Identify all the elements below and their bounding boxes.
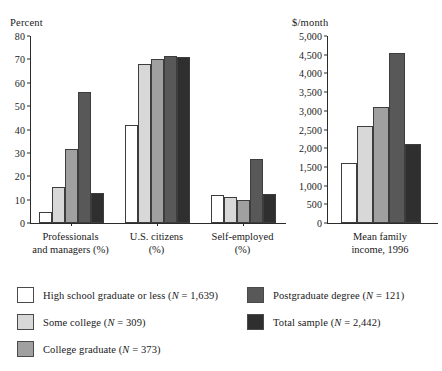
bar (237, 200, 250, 223)
right-bar-groups (328, 36, 437, 223)
y-tick-label: 2,500 (299, 124, 327, 135)
y-tick-label: 1,000 (299, 180, 327, 191)
x-tick-mark (157, 223, 158, 226)
legend-item: High school graduate or less (N = 1,639) (17, 287, 218, 303)
bar (250, 159, 263, 223)
category-label: Self-employed (%) (183, 231, 303, 256)
legend-item: Postgraduate degree (N = 121) (247, 287, 404, 303)
y-tick-label: 3,000 (299, 105, 327, 116)
y-tick-mark (27, 152, 30, 153)
legend-label: Some college (N = 309) (43, 317, 146, 328)
chart-legend: High school graduate or less (N = 1,639)… (0, 283, 442, 371)
y-tick-mark (324, 223, 327, 224)
bar (357, 126, 373, 223)
legend-item: Some college (N = 309) (17, 314, 146, 330)
y-tick-mark (27, 129, 30, 130)
bar (211, 195, 224, 223)
bar (151, 59, 164, 223)
legend-item: Total sample (N = 2,442) (247, 314, 381, 330)
right-x-axis (327, 223, 438, 224)
legend-label: College graduate (N = 373) (43, 344, 161, 355)
bar (52, 187, 65, 223)
bar (405, 144, 421, 223)
legend-swatch-icon (17, 341, 34, 357)
legend-item: College graduate (N = 373) (17, 341, 161, 357)
y-tick-mark (27, 82, 30, 83)
y-tick-label: 1,500 (299, 161, 327, 172)
bar (341, 163, 357, 223)
y-tick-mark (27, 106, 30, 107)
y-tick-mark (324, 148, 327, 149)
legend-swatch-icon (17, 287, 34, 303)
legend-swatch-icon (247, 314, 264, 330)
bar (91, 193, 104, 223)
bar (263, 194, 276, 223)
bar (78, 92, 91, 223)
y-tick-label: 4,000 (299, 68, 327, 79)
left-bar-groups (31, 36, 285, 223)
category-label: Mean family income, 1996 (320, 231, 440, 256)
bar-group (125, 36, 190, 223)
y-tick-mark (324, 166, 327, 167)
bar (224, 197, 237, 223)
bar-group (211, 36, 276, 223)
right-chart-unit-label: $/month (292, 17, 328, 28)
legend-label: Postgraduate degree (N = 121) (273, 290, 404, 301)
bar (164, 56, 177, 223)
bar (373, 107, 389, 223)
y-tick-mark (324, 73, 327, 74)
y-tick-mark (27, 223, 30, 224)
bar (125, 125, 138, 223)
legend-label: Total sample (N = 2,442) (273, 317, 381, 328)
y-tick-mark (324, 54, 327, 55)
bar (39, 212, 52, 223)
y-tick-mark (324, 110, 327, 111)
y-tick-label: 3,500 (299, 87, 327, 98)
left-chart-unit-label: Percent (10, 17, 43, 28)
bar (389, 53, 405, 223)
bar (65, 149, 78, 223)
y-tick-mark (27, 36, 30, 37)
legend-swatch-icon (17, 314, 34, 330)
y-tick-label: 4,500 (299, 49, 327, 60)
y-tick-mark (27, 176, 30, 177)
bar-group (39, 36, 104, 223)
y-tick-mark (27, 199, 30, 200)
x-tick-mark (243, 223, 244, 226)
y-tick-mark (27, 59, 30, 60)
legend-label: High school graduate or less (N = 1,639) (43, 290, 218, 301)
y-tick-mark (324, 204, 327, 205)
legend-swatch-icon (247, 287, 264, 303)
y-tick-mark (324, 129, 327, 130)
left-x-axis (30, 223, 286, 224)
y-tick-label: 5,000 (299, 31, 327, 42)
bar (138, 64, 151, 223)
x-tick-mark (71, 223, 72, 226)
y-tick-mark (324, 36, 327, 37)
y-tick-mark (324, 92, 327, 93)
y-tick-mark (324, 185, 327, 186)
bar-group (341, 36, 421, 223)
bar (177, 57, 190, 223)
y-tick-label: 2,000 (299, 143, 327, 154)
